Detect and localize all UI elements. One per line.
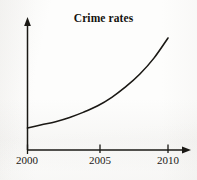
x-axis-arrow-icon — [182, 146, 191, 153]
y-axis-arrow-icon — [24, 17, 31, 26]
chart-figure: Crime rates 2000 2005 2010 — [0, 0, 197, 180]
x-axis-tick-label: 2010 — [157, 154, 179, 166]
x-axis-tick-label: 2000 — [16, 154, 38, 166]
data-curve-crime-rates — [28, 38, 169, 128]
x-axis-tick-label: 2005 — [89, 154, 111, 166]
plot-area — [0, 0, 197, 180]
